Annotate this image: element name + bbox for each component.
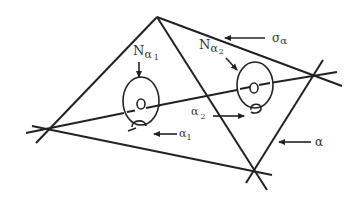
triangulation-edges <box>26 17 342 190</box>
label-n-alpha1: Nα1 <box>133 43 159 62</box>
label-alpha: α <box>315 135 323 149</box>
annotation-arrows <box>139 38 311 142</box>
edge-left-right-seg6 <box>259 83 270 85</box>
edge-left-right-seg2 <box>127 111 135 113</box>
edge-right-bottom <box>246 60 323 183</box>
label-alpha1: α1 <box>179 127 192 142</box>
diagram-canvas: Nα1 Nα2 σα α1 α2 α <box>0 0 360 202</box>
label-sigma-alpha: σα <box>272 31 287 46</box>
neighborhood-n-alpha1 <box>123 77 159 131</box>
arrow-n-alpha2 <box>226 58 237 70</box>
edge-left-right-seg1 <box>26 113 124 133</box>
edge-left-right-seg4 <box>158 90 237 106</box>
edge-left-bottom <box>32 126 272 175</box>
label-alpha2: α2 <box>191 105 206 121</box>
neighborhood-n-alpha2 <box>237 62 273 113</box>
edge-left-right-seg5 <box>240 87 250 89</box>
labels: Nα1 Nα2 σα α1 α2 α <box>133 31 323 149</box>
